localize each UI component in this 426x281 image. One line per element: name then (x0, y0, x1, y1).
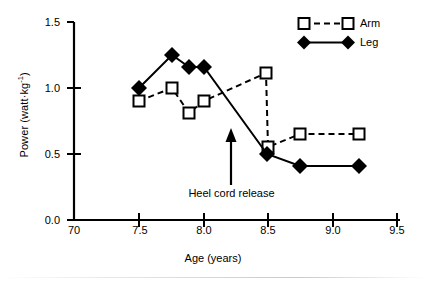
legend-label-leg: Leg (360, 36, 378, 48)
series-leg (131, 47, 367, 174)
series-leg-line (139, 55, 359, 166)
heel-cord-release-label: Heel cord release (139, 187, 324, 199)
legend-swatch-leg (296, 33, 356, 52)
series-leg-markers (131, 47, 367, 174)
legend-label-arm: Arm (360, 17, 380, 29)
series-arm (134, 68, 365, 153)
scan-edge-artifact (0, 277, 426, 278)
chart-figure: Power (watt·kg-1) 1.5 1.0 0.5 0.0 70 7.5… (0, 0, 426, 281)
heel-cord-release-arrow (226, 128, 237, 185)
legend-swatch-arm (296, 14, 356, 33)
